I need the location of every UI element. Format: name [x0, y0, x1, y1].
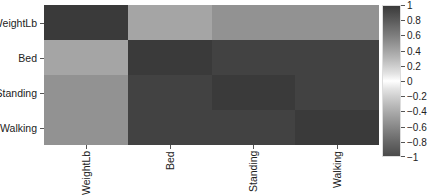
column-label: WeightLb — [80, 151, 92, 195]
row-label: Bed — [18, 52, 37, 64]
heatmap-cell — [295, 5, 379, 40]
colorbar-tick-label: 0.4 — [407, 45, 421, 56]
column-label: Standing — [247, 151, 259, 192]
heatmap-cell — [212, 5, 296, 40]
colorbar-tick — [401, 5, 405, 6]
colorbar-tick — [401, 20, 405, 21]
row-label: Walking — [0, 122, 37, 134]
heatmap-cell — [128, 110, 212, 145]
colorbar-tick — [401, 35, 405, 36]
colorbar-tick-label: 1 — [407, 0, 413, 11]
heatmap-cell — [212, 75, 296, 110]
heatmap-cell — [44, 40, 128, 75]
column-label: Bed — [164, 151, 176, 170]
heatmap-cell — [128, 75, 212, 110]
row-tick — [40, 23, 44, 24]
row-label: Standing — [0, 87, 37, 99]
colorbar-tick — [401, 81, 405, 82]
heatmap-cell — [212, 110, 296, 145]
column-tick — [86, 145, 87, 149]
colorbar — [382, 5, 401, 157]
colorbar-tick-label: 0 — [407, 76, 413, 87]
colorbar-tick — [401, 96, 405, 97]
colorbar-tick — [401, 127, 405, 128]
row-tick — [40, 58, 44, 59]
column-label: Walking — [331, 151, 343, 188]
colorbar-tick-label: −0.4 — [407, 106, 427, 117]
column-tick — [253, 145, 254, 149]
colorbar-tick-label: 0.8 — [407, 15, 421, 26]
heatmap-cell — [44, 110, 128, 145]
heatmap-cell — [295, 40, 379, 75]
colorbar-tick-label: −0.6 — [407, 121, 427, 132]
heatmap-cell — [128, 5, 212, 40]
heatmap-cell — [295, 75, 379, 110]
column-tick — [337, 145, 338, 149]
column-tick — [170, 145, 171, 149]
colorbar-tick-label: 0.2 — [407, 60, 421, 71]
heatmap-cell — [128, 40, 212, 75]
colorbar-tick-label: 0.6 — [407, 30, 421, 41]
row-tick — [40, 93, 44, 94]
colorbar-tick-label: −1 — [407, 152, 418, 163]
colorbar-tick-label: −0.8 — [407, 136, 427, 147]
colorbar-tick — [401, 111, 405, 112]
row-label: WeightLb — [0, 17, 37, 29]
colorbar-tick-label: −0.2 — [407, 91, 427, 102]
heatmap-cell — [44, 75, 128, 110]
correlation-heatmap — [44, 5, 379, 145]
colorbar-tick — [401, 66, 405, 67]
colorbar-tick — [401, 156, 405, 157]
heatmap-cell — [295, 110, 379, 145]
row-tick — [40, 128, 44, 129]
colorbar-tick — [401, 51, 405, 52]
heatmap-cell — [212, 40, 296, 75]
heatmap-cell — [44, 5, 128, 40]
colorbar-tick — [401, 142, 405, 143]
